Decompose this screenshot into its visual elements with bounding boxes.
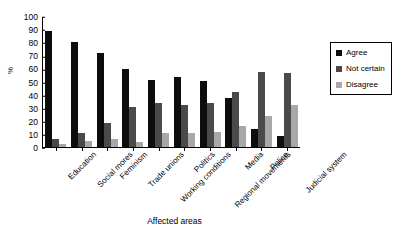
bar [284,73,291,147]
bar [174,77,181,147]
bar [265,116,272,147]
x-axis-category-label: Media [243,150,265,172]
y-axis-tick-label: 30 [29,104,38,113]
bar [258,72,265,147]
y-axis-tick-label: 60 [29,65,38,74]
y-axis-tick-label: 70 [29,52,38,61]
bar [225,98,232,147]
bar [129,107,136,147]
y-axis-tick-label: 40 [29,91,38,100]
legend-item-label: Not certain [346,64,385,73]
chart-legend: AgreeNot certainDisagree [330,42,392,95]
bar [148,80,155,147]
y-axis-tick-label: 80 [29,39,38,48]
bar-group [146,17,172,147]
y-axis-tick-label: 100 [24,13,38,22]
x-axis-category-label: Trade unions [147,150,186,189]
bar-groups [43,17,300,147]
bar [291,105,298,147]
y-axis-tick-label: 10 [29,131,38,140]
legend-item: Disagree [336,80,385,89]
plot-area: 0102030405060708090100 [42,17,300,148]
bar-group [197,17,223,147]
bar [155,103,162,147]
bar [85,141,92,148]
bar [251,129,258,147]
bar-group [249,17,275,147]
x-axis-category-label: Education [66,150,98,182]
y-axis-tick-mark [42,148,45,149]
bar [181,105,188,147]
bar [188,133,195,147]
bar [111,139,118,147]
legend-swatch-icon [336,66,342,72]
x-axis-category-labels: EducationSocial moresFeminismTrade union… [43,150,301,210]
bar-group [69,17,95,147]
bar [52,139,59,147]
bar [104,123,111,147]
y-axis-tick-label: 50 [29,78,38,87]
y-axis-tick-label: 0 [33,144,38,153]
legend-item: Not certain [336,64,385,73]
bar [200,81,207,147]
bar [97,53,104,147]
bar [122,69,129,147]
bar [45,31,52,147]
bar-group [274,17,300,147]
bar [71,42,78,147]
bar [78,133,85,147]
legend-swatch-icon [336,50,342,56]
y-axis-tick-label: 90 [29,26,38,35]
y-axis-title: % [6,67,15,74]
bar-group [172,17,198,147]
bar-group [120,17,146,147]
bar [59,144,66,147]
legend-item-label: Disagree [346,80,378,89]
legend-item: Agree [336,48,385,57]
bar [214,132,221,147]
bar [232,92,239,147]
bar-group [223,17,249,147]
bar-group [43,17,69,147]
bar-chart: % 0102030405060708090100 EducationSocial… [0,0,409,241]
x-axis-title: Affected areas [0,216,409,226]
bar [277,136,284,147]
legend-swatch-icon [336,82,342,88]
x-axis-title-text: Affected areas [147,216,202,226]
legend-item-label: Agree [346,48,367,57]
bar [136,142,143,147]
x-axis-category-label: Judicial system [304,150,349,195]
bar [162,133,169,147]
bar [239,126,246,147]
bar-group [94,17,120,147]
y-axis-tick-label: 20 [29,118,38,127]
bar [207,103,214,147]
